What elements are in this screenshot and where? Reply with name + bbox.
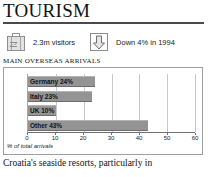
chart-bar-label: Italy 23% — [30, 92, 58, 101]
axis-tick-label: 50 — [164, 135, 171, 141]
chart-bar-row: Other 43% — [28, 120, 195, 131]
chart-bar-label: Other 43% — [30, 121, 62, 130]
axis-tick-label: 0 — [25, 135, 28, 141]
key-facts-row: 2.3m visitors Down 4% in 1994 — [0, 29, 208, 55]
axis-tick-label: 30 — [108, 135, 115, 141]
chart-x-axis-label: % of total arrivals — [7, 143, 53, 149]
chart-bars: Germany 24%Italy 23%UK 10%Other 43% — [28, 74, 195, 132]
title-divider — [3, 22, 204, 24]
suitcase-icon — [4, 30, 28, 54]
axis-tick-label: 10 — [52, 135, 59, 141]
chart-bar-label: UK 10% — [30, 106, 54, 115]
chart-x-axis: 0102030405060 — [27, 133, 195, 143]
chart-heading: MAIN OVERSEAS ARRIVALS — [0, 57, 208, 65]
axis-tick-label: 40 — [136, 135, 143, 141]
chart-bar-row: Italy 23% — [28, 91, 195, 102]
gridline — [195, 74, 196, 132]
chart-bar-label: Germany 24% — [30, 77, 73, 86]
fact-change-label: Down 4% in 1994 — [116, 38, 175, 47]
tourism-infographic: TOURISM 2.3m visitors D — [0, 0, 208, 177]
chart-bar-row: UK 10% — [28, 105, 195, 116]
down-arrow-icon — [87, 30, 111, 54]
chart-bar-row: Germany 24% — [28, 76, 195, 87]
page-title: TOURISM — [0, 0, 208, 21]
fact-change: Down 4% in 1994 — [87, 30, 175, 54]
fact-visitors-label: 2.3m visitors — [33, 38, 75, 47]
fact-visitors: 2.3m visitors — [4, 30, 75, 54]
chart-plot-area: Germany 24%Italy 23%UK 10%Other 43% — [27, 74, 195, 133]
body-paragraph: Croatia's seaside resorts, particularly … — [0, 155, 208, 169]
axis-tick-label: 60 — [192, 135, 199, 141]
chart-panel: Germany 24%Italy 23%UK 10%Other 43% 0102… — [3, 67, 203, 155]
axis-tick-label: 20 — [80, 135, 87, 141]
